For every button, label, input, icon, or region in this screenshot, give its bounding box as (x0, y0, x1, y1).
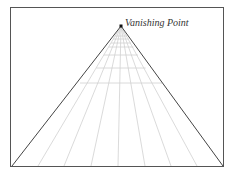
vanishing-point-label: Vanishing Point (125, 17, 189, 28)
perspective-diagram (0, 0, 230, 181)
vanishing-point-marker (120, 25, 123, 28)
